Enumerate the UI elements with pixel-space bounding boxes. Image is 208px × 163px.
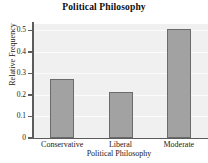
chart-title: Political Philosophy	[0, 1, 208, 13]
y-tick-mark	[28, 51, 33, 52]
x-axis-line	[32, 138, 208, 140]
y-tick-label: 0.2	[0, 91, 26, 99]
bar	[50, 79, 74, 138]
y-tick-mark	[28, 137, 33, 138]
bar	[109, 92, 133, 138]
y-tick-label: 0.1	[0, 112, 26, 120]
bar-chart: Political Philosophy Relative Frequency …	[0, 0, 208, 163]
y-tick-mark	[28, 30, 33, 31]
y-tick-label: 0.5	[0, 26, 26, 34]
y-tick-mark	[28, 94, 33, 95]
x-axis-label: Political Philosophy	[30, 149, 208, 159]
y-tick-mark	[28, 116, 33, 117]
bar	[167, 29, 191, 138]
plot-area	[33, 24, 208, 138]
y-tick-label: 0.3	[0, 69, 26, 77]
y-tick-mark	[28, 73, 33, 74]
y-axis-line	[32, 22, 34, 139]
y-tick-label: 0.4	[0, 48, 26, 56]
